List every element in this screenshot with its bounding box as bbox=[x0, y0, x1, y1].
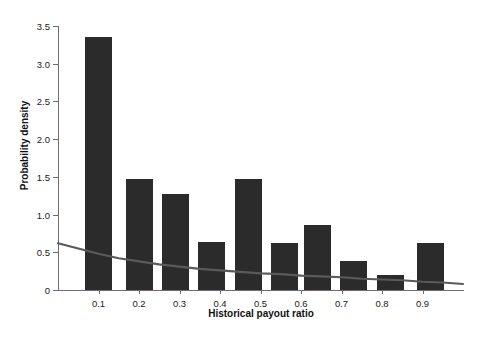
figure-caption: Unrestricted estimation of the fitted be… bbox=[44, 0, 464, 3]
y-axis-tick-label: 0 bbox=[45, 285, 50, 296]
x-axis-tick-mark bbox=[301, 290, 302, 294]
fitted-beta-curve-path bbox=[58, 243, 463, 284]
x-axis-tick-mark bbox=[220, 290, 221, 294]
x-axis-tick-mark bbox=[180, 290, 181, 294]
y-axis-title: Probability density bbox=[19, 36, 30, 256]
y-axis-tick-mark bbox=[53, 290, 58, 291]
y-axis-tick-label: 1.0 bbox=[37, 209, 50, 220]
x-axis-tick-mark bbox=[99, 290, 100, 294]
y-axis-tick-label: 0.5 bbox=[37, 247, 50, 258]
y-axis-tick-label: 3.5 bbox=[37, 21, 50, 32]
chart-figure: Unrestricted estimation of the fitted be… bbox=[0, 0, 477, 338]
x-axis-tick-mark bbox=[139, 290, 140, 294]
y-axis-tick-label: 2.5 bbox=[37, 96, 50, 107]
x-axis-tick-mark bbox=[261, 290, 262, 294]
x-axis-tick-mark bbox=[342, 290, 343, 294]
y-axis-tick-label: 3.0 bbox=[37, 58, 50, 69]
y-axis-tick-label: 2.0 bbox=[37, 134, 50, 145]
fitted-beta-curve bbox=[58, 26, 463, 290]
x-axis-tick-mark bbox=[423, 290, 424, 294]
y-axis-tick-label: 1.5 bbox=[37, 171, 50, 182]
x-axis-tick-mark bbox=[382, 290, 383, 294]
plot-area: 00.51.01.52.02.53.03.5 0.10.20.30.40.50.… bbox=[58, 26, 463, 290]
x-axis-title: Historical payout ratio bbox=[58, 308, 464, 319]
